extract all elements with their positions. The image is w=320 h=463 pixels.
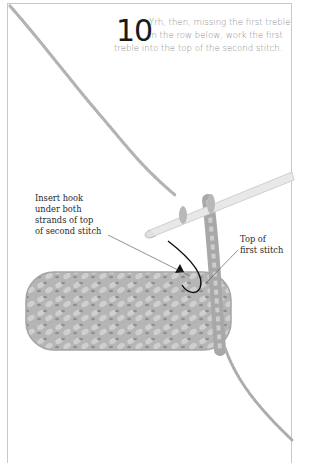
arrow-head-icon bbox=[175, 264, 184, 273]
crochet-hook bbox=[150, 172, 294, 236]
step-number: 10 bbox=[116, 16, 152, 46]
annotation-line: strands of top bbox=[35, 215, 101, 226]
yarn-tail-bottom bbox=[225, 348, 292, 440]
annotation-line: Insert hook bbox=[35, 193, 101, 204]
step-instruction: 10 Yrh, then, missing the first treble i… bbox=[116, 16, 296, 55]
annotation-top-of-first-stitch: Top of first stitch bbox=[240, 234, 283, 256]
annotation-line: under both bbox=[35, 204, 101, 215]
annotation-line: first stitch bbox=[240, 245, 283, 256]
annotation-line: Top of bbox=[240, 234, 283, 245]
leader-line-insert bbox=[108, 235, 190, 276]
annotation-line: of second stitch bbox=[35, 226, 101, 237]
annotation-insert-hook: Insert hook under both strands of top of… bbox=[35, 193, 101, 237]
